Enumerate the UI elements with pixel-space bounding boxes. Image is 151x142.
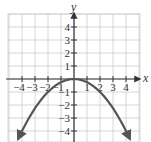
y-tick-label: 4 xyxy=(65,21,71,33)
y-axis-label: y xyxy=(70,0,77,14)
x-axis-label: x xyxy=(142,71,149,85)
y-tick-label: −3 xyxy=(58,112,70,124)
x-tick-label: −3 xyxy=(26,81,38,93)
y-tick-label: −4 xyxy=(58,125,70,137)
y-tick-label: 1 xyxy=(65,60,71,72)
y-tick-label: 3 xyxy=(65,34,71,46)
parabola-graph: −4−3−2−112344321−1−2−3−4 x y xyxy=(0,0,151,142)
x-tick-label: −4 xyxy=(13,81,25,93)
y-tick-label: −2 xyxy=(58,99,70,111)
y-tick-label: 2 xyxy=(65,47,71,59)
x-tick-label: 4 xyxy=(123,81,129,93)
x-tick-label: 3 xyxy=(110,81,116,93)
y-tick-label: −1 xyxy=(58,86,70,98)
